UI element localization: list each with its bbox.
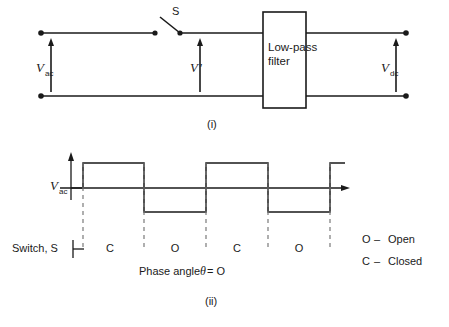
switch-state-4: O xyxy=(295,242,304,254)
vdc-label-subscript: dc xyxy=(390,69,398,78)
vprime-arrow-head xyxy=(197,38,203,46)
switch-blade xyxy=(160,17,180,33)
vprime-label-prime: ' xyxy=(199,60,202,75)
phase-angle-caption-suffix: = O xyxy=(207,265,225,277)
vdc-arrow-head xyxy=(393,38,399,46)
waveform-y-label-subscript: ac xyxy=(59,187,67,196)
switch-state-2: O xyxy=(171,242,180,254)
terminal-node-top-right xyxy=(403,30,409,36)
phase-angle-caption-symbol: θ xyxy=(200,264,206,278)
legend-key-open: O xyxy=(362,233,371,245)
filter-label-line2: filter xyxy=(268,55,290,67)
y-axis-arrowhead xyxy=(68,152,74,161)
terminal-node-top-left xyxy=(38,30,44,36)
terminal-node-bottom-left xyxy=(38,93,44,99)
legend-dash-open: – xyxy=(374,233,381,245)
legend-dash-closed: – xyxy=(374,255,381,267)
legend-text-open: Open xyxy=(388,233,415,245)
figure-page: Low-pass filter V ac V ' V dc S (i) xyxy=(0,0,449,327)
switch-contact-left xyxy=(152,30,157,35)
vac-arrow-head xyxy=(48,38,54,46)
vac-label-subscript: ac xyxy=(45,69,53,78)
switch-row-label: Switch, S xyxy=(12,242,58,254)
waveform-panel: V ac Switch, S C O C O Phase angle θ = O xyxy=(12,152,422,307)
circuit-panel: Low-pass filter V ac V ' V dc S (i) xyxy=(36,5,409,130)
legend-text-closed: Closed xyxy=(388,255,422,267)
technical-diagram: Low-pass filter V ac V ' V dc S (i) xyxy=(0,0,449,327)
panel-i-caption: (i) xyxy=(207,118,217,130)
panel-ii-caption: (ii) xyxy=(205,295,217,307)
phase-angle-caption-prefix: Phase angle xyxy=(139,265,200,277)
switch-s-label: S xyxy=(172,5,179,17)
terminal-node-bottom-right xyxy=(403,93,409,99)
legend-key-closed: C xyxy=(362,255,370,267)
x-axis-arrowhead xyxy=(341,185,350,191)
switch-state-1: C xyxy=(106,242,114,254)
filter-label-line1: Low-pass xyxy=(268,41,317,53)
switch-state-3: C xyxy=(233,242,241,254)
